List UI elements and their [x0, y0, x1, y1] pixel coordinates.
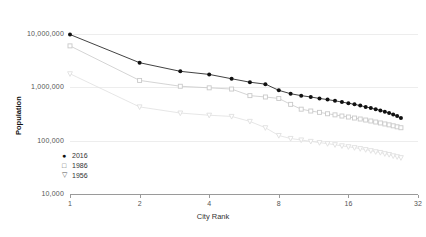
marker-open-triangle — [358, 147, 363, 152]
rank-size-population-chart: Population 10,000100,0001,000,00010,000,… — [0, 0, 426, 237]
marker-open-square — [364, 118, 368, 122]
marker-open-square — [391, 124, 395, 128]
x-tick-mark — [348, 195, 349, 198]
marker-filled-circle — [395, 114, 399, 118]
marker-open-triangle — [248, 119, 253, 124]
series-line — [70, 46, 401, 128]
legend-label: 1956 — [72, 172, 88, 179]
x-tick-mark — [279, 195, 280, 198]
marker-open-triangle — [317, 141, 322, 146]
marker-open-triangle — [308, 139, 313, 144]
marker-filled-circle — [299, 94, 303, 98]
marker-open-square — [178, 84, 182, 88]
marker-open-triangle — [368, 149, 373, 154]
marker-open-square — [387, 123, 391, 127]
marker-open-square — [326, 112, 330, 116]
x-tick-label: 2 — [128, 200, 152, 207]
y-tick-label: 10,000,000 — [2, 30, 64, 37]
marker-filled-circle — [378, 108, 382, 112]
marker-open-triangle — [325, 142, 330, 147]
marker-open-square — [318, 110, 322, 114]
marker-open-square — [383, 122, 387, 126]
marker-open-triangle — [387, 152, 392, 157]
marker-filled-circle — [399, 116, 403, 120]
marker-open-triangle — [68, 72, 73, 77]
marker-open-square — [374, 120, 378, 124]
legend-label: 2016 — [72, 152, 88, 159]
series-line — [70, 74, 401, 158]
x-tick-mark — [70, 195, 71, 198]
marker-filled-circle — [352, 102, 356, 106]
marker-filled-circle — [207, 72, 211, 76]
marker-filled-circle — [364, 105, 368, 109]
marker-open-square — [333, 113, 337, 117]
marker-open-triangle — [352, 146, 357, 151]
marker-open-triangle — [373, 150, 378, 155]
y-tick-label: 100,000 — [2, 137, 64, 144]
x-tick-label: 16 — [336, 200, 360, 207]
x-tick-mark — [418, 195, 419, 198]
marker-filled-circle — [178, 69, 182, 73]
marker-open-square — [369, 119, 373, 123]
marker-open-triangle — [263, 126, 268, 131]
marker-open-triangle — [399, 156, 404, 161]
x-tick-label: 1 — [58, 200, 82, 207]
marker-open-square — [309, 109, 313, 113]
marker-open-square — [277, 96, 281, 100]
marker-open-triangle — [378, 150, 383, 155]
legend-marker-icon: ▽ — [58, 171, 70, 179]
marker-open-square — [346, 115, 350, 119]
x-axis-title: City Rank — [0, 212, 426, 221]
marker-open-triangle — [346, 145, 351, 150]
marker-filled-circle — [358, 104, 362, 108]
legend-marker-icon: ● — [58, 152, 70, 159]
marker-open-square — [263, 95, 267, 99]
marker-filled-circle — [326, 98, 330, 102]
legend-item-1986[interactable]: □1986 — [58, 160, 88, 170]
marker-open-triangle — [299, 138, 304, 143]
marker-open-triangle — [178, 111, 183, 116]
marker-open-square — [378, 121, 382, 125]
marker-filled-circle — [309, 95, 313, 99]
marker-filled-circle — [346, 101, 350, 105]
legend-label: 1986 — [72, 162, 88, 169]
marker-open-square — [138, 78, 142, 82]
x-tick-label: 32 — [406, 200, 426, 207]
marker-open-square — [352, 116, 356, 120]
marker-open-square — [230, 87, 234, 91]
marker-open-square — [248, 94, 252, 98]
marker-filled-circle — [68, 33, 72, 37]
marker-open-square — [340, 114, 344, 118]
marker-filled-circle — [374, 107, 378, 111]
marker-filled-circle — [277, 88, 281, 92]
marker-filled-circle — [248, 80, 252, 84]
marker-open-square — [207, 86, 211, 90]
x-tick-label: 4 — [197, 200, 221, 207]
y-tick-label: 1,000,000 — [2, 83, 64, 90]
marker-open-triangle — [340, 144, 345, 149]
x-axis-line — [70, 194, 418, 195]
marker-open-triangle — [363, 148, 368, 153]
marker-filled-circle — [391, 112, 395, 116]
marker-open-triangle — [229, 114, 234, 119]
marker-open-square — [299, 107, 303, 111]
legend-marker-icon: □ — [58, 162, 70, 169]
marker-filled-circle — [318, 96, 322, 100]
marker-open-square — [289, 102, 293, 106]
x-tick-label: 8 — [267, 200, 291, 207]
y-axis-title: Population — [14, 96, 23, 135]
legend-item-1956[interactable]: ▽1956 — [58, 170, 88, 180]
marker-filled-circle — [230, 77, 234, 81]
marker-filled-circle — [263, 82, 267, 86]
x-tick-mark — [140, 195, 141, 198]
series-layer — [70, 18, 418, 194]
series-line — [70, 35, 401, 119]
marker-open-triangle — [333, 143, 338, 148]
series-2016 — [68, 33, 403, 121]
marker-filled-circle — [387, 111, 391, 115]
marker-filled-circle — [340, 100, 344, 104]
marker-open-triangle — [137, 105, 142, 110]
marker-open-square — [399, 126, 403, 130]
marker-filled-circle — [383, 110, 387, 114]
legend-item-2016[interactable]: ●2016 — [58, 150, 88, 160]
